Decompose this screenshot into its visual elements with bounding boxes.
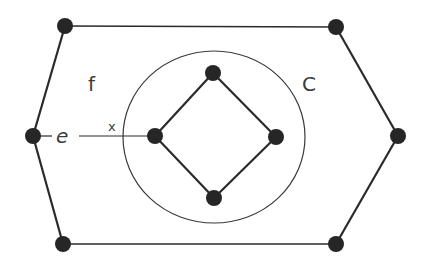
diamond-vertex-left <box>147 128 163 144</box>
edge-bottom-right <box>336 136 398 244</box>
vertex-top-left <box>57 18 73 34</box>
vertex-right <box>390 128 406 144</box>
edge-bottom-left <box>33 136 63 244</box>
diamond-vertex-right <box>268 129 284 145</box>
outer-hexagon <box>33 26 398 244</box>
vertex-top-right <box>328 19 344 35</box>
diamond-vertex-bottom <box>206 190 222 206</box>
diamond-edge-bottom-left <box>155 136 214 198</box>
crossing-label-x: x <box>108 119 116 134</box>
diamond-edge-bottom-right <box>214 137 276 198</box>
face-label-f: f <box>88 72 96 96</box>
edge-top <box>65 26 336 27</box>
edge-top-left <box>33 26 65 136</box>
planar-graph-diagram: f C e x <box>0 0 425 268</box>
diamond-vertex-top <box>205 65 221 81</box>
vertex-bottom-right <box>328 236 344 252</box>
edge-label-e: e <box>56 124 68 148</box>
diamond-edge-top-left <box>155 73 213 136</box>
vertex-left <box>25 128 41 144</box>
curve-label-c: C <box>302 72 316 96</box>
vertex-bottom-left <box>55 236 71 252</box>
diamond-edge-top-right <box>213 73 276 137</box>
outer-vertices <box>25 18 406 252</box>
inner-vertices <box>147 65 284 206</box>
edge-top-right <box>336 27 398 136</box>
inner-diamond <box>155 73 276 198</box>
